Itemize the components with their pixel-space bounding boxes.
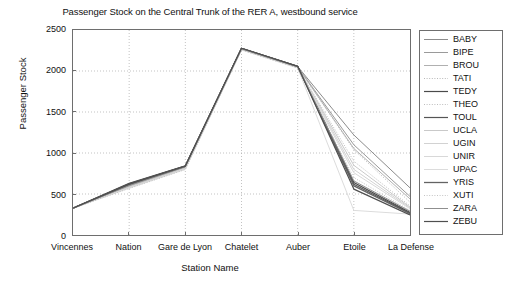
legend-label: THEO — [453, 100, 478, 109]
y-tick-label: 1500 — [28, 107, 66, 117]
legend-label: BIPE — [453, 48, 474, 57]
legend-label: ZARA — [453, 204, 477, 213]
legend-label: TATI — [453, 74, 471, 83]
legend-item-brou[interactable]: BROU — [420, 59, 504, 72]
legend-item-zara[interactable]: ZARA — [420, 202, 504, 215]
legend-item-baby[interactable]: BABY — [420, 33, 504, 46]
legend-label: TOUL — [453, 113, 477, 122]
legend-item-unir[interactable]: UNIR — [420, 150, 504, 163]
x-tick-label: Vincennes — [51, 242, 93, 252]
legend-item-xuti[interactable]: XUTI — [420, 189, 504, 202]
legend-swatch-upac — [423, 163, 449, 176]
y-tick-label: 0 — [28, 231, 66, 241]
x-tick-label: La Defense — [388, 242, 434, 252]
legend-swatch-tedy — [423, 85, 449, 98]
legend-swatch-xuti — [423, 189, 449, 202]
legend-label: BROU — [453, 61, 479, 70]
legend-swatch-brou — [423, 59, 449, 72]
x-tick-label: Gare de Lyon — [158, 242, 212, 252]
legend-label: UPAC — [453, 165, 477, 174]
legend-item-yris[interactable]: YRIS — [420, 176, 504, 189]
line-chart-svg — [73, 30, 410, 235]
legend-swatch-ugin — [423, 137, 449, 150]
legend-swatch-zebu — [423, 215, 449, 228]
x-tick-label: Etoile — [343, 242, 366, 252]
legend-swatch-theo — [423, 98, 449, 111]
legend-label: BABY — [453, 35, 477, 44]
legend-label: TEDY — [453, 87, 477, 96]
legend-swatch-bipe — [423, 46, 449, 59]
legend-item-zebu[interactable]: ZEBU — [420, 215, 504, 228]
legend-item-bipe[interactable]: BIPE — [420, 46, 504, 59]
y-tick-label: 2000 — [28, 65, 66, 75]
plot-inner — [73, 30, 410, 235]
y-tick-label: 1000 — [28, 148, 66, 158]
legend-item-ucla[interactable]: UCLA — [420, 124, 504, 137]
chart-title: Passenger Stock on the Central Trunk of … — [0, 6, 420, 17]
legend-swatch-tati — [423, 72, 449, 85]
x-tick-label: Nation — [115, 242, 141, 252]
plot-area — [72, 29, 411, 236]
legend-swatch-baby — [423, 33, 449, 46]
y-axis-label: Passenger Stock — [17, 24, 28, 164]
legend-label: ZEBU — [453, 217, 477, 226]
legend-label: YRIS — [453, 178, 474, 187]
x-tick-label: Chatelet — [225, 242, 259, 252]
x-axis-label: Station Name — [0, 262, 420, 273]
legend-swatch-ucla — [423, 124, 449, 137]
legend[interactable]: BABYBIPEBROUTATITEDYTHEOTOULUCLAUGINUNIR… — [419, 30, 503, 235]
legend-swatch-toul — [423, 111, 449, 124]
y-tick-label: 500 — [28, 190, 66, 200]
legend-label: UNIR — [453, 152, 475, 161]
legend-swatch-yris — [423, 176, 449, 189]
legend-label: UCLA — [453, 126, 477, 135]
legend-item-toul[interactable]: TOUL — [420, 111, 504, 124]
chart-figure: Passenger Stock on the Central Trunk of … — [0, 0, 507, 281]
legend-label: XUTI — [453, 191, 474, 200]
legend-item-tati[interactable]: TATI — [420, 72, 504, 85]
legend-label: UGIN — [453, 139, 476, 148]
legend-swatch-unir — [423, 150, 449, 163]
x-tick-label: Auber — [286, 242, 310, 252]
legend-item-tedy[interactable]: TEDY — [420, 85, 504, 98]
y-tick-label: 2500 — [28, 24, 66, 34]
legend-item-theo[interactable]: THEO — [420, 98, 504, 111]
legend-item-upac[interactable]: UPAC — [420, 163, 504, 176]
legend-item-ugin[interactable]: UGIN — [420, 137, 504, 150]
legend-swatch-zara — [423, 202, 449, 215]
